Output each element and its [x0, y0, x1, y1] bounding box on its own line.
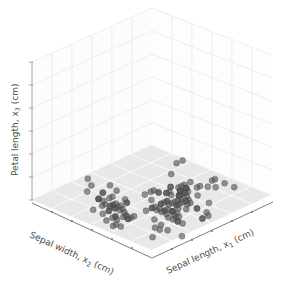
scatter-point: [180, 157, 186, 163]
scatter-point: [148, 197, 154, 203]
scatter-point: [187, 179, 193, 185]
scatter-point: [100, 190, 106, 196]
x-axis-label-prefix: Sepal length, x: [165, 238, 231, 275]
scatter-point: [183, 206, 189, 212]
scatter-point: [158, 222, 164, 228]
scatter-point: [169, 208, 175, 214]
scatter-point: [113, 222, 119, 228]
scatter-point: [197, 183, 203, 189]
scatter-point: [176, 214, 182, 220]
figure-canvas: Petal length, x3 (cm) Sepal width, x2 (c…: [0, 0, 281, 294]
scatter-point: [231, 184, 237, 190]
scatter-point: [212, 176, 218, 182]
x-axis-label-suffix: (cm): [230, 227, 256, 246]
z-axis-label-prefix: Petal length, x: [10, 111, 20, 176]
scatter-point: [152, 225, 158, 231]
scatter-point: [100, 211, 106, 217]
scatter-point: [151, 217, 157, 223]
scatter-point: [88, 182, 94, 188]
scatter-point: [158, 201, 164, 207]
scatter-point: [103, 218, 109, 224]
scatter-point: [195, 193, 201, 199]
scatter-point: [99, 203, 105, 209]
scatter-point: [106, 195, 112, 201]
scatter-point: [213, 184, 219, 190]
scatter-point: [159, 209, 165, 215]
scatter-point: [143, 208, 149, 214]
scatter-point: [117, 207, 123, 213]
z-axis-label: Petal length, x3 (cm): [10, 83, 22, 176]
scatter-point: [168, 192, 174, 198]
scatter-point: [205, 184, 211, 190]
scatter-point: [142, 192, 148, 198]
scatter-point: [175, 185, 181, 191]
scatter-point: [107, 203, 113, 209]
scatter-point: [125, 216, 131, 222]
scatter-point: [150, 234, 156, 240]
scatter3d-plot: Petal length, x3 (cm) Sepal width, x2 (c…: [0, 0, 281, 294]
scatter-point: [109, 215, 115, 221]
scatter-point: [85, 176, 91, 182]
scatter-point: [179, 233, 185, 239]
y-axis-label-suffix: (cm): [90, 258, 116, 277]
scatter-point: [148, 189, 154, 195]
scatter-point: [199, 216, 205, 222]
scatter-point: [114, 188, 120, 194]
scatter-point: [107, 182, 113, 188]
scatter-point: [96, 196, 102, 202]
scatter-point: [222, 180, 228, 186]
scatter-point: [182, 190, 188, 196]
y-axis-label-prefix: Sepal width, x: [28, 230, 91, 266]
y-axis-label: Sepal width, x2 (cm): [27, 230, 115, 279]
scatter-point: [168, 171, 174, 177]
scatter-point: [168, 184, 174, 190]
scatter-point: [165, 227, 171, 233]
z-axis-label-suffix: (cm): [10, 83, 20, 107]
scatter-point: [90, 207, 96, 213]
scatter-point: [174, 160, 180, 166]
scatter-point: [176, 193, 182, 199]
scatter-point: [122, 196, 128, 202]
scatter-point: [204, 209, 210, 215]
scatter-point: [180, 199, 186, 205]
scatter-point: [131, 213, 137, 219]
scatter-point: [84, 189, 90, 195]
scatter-point: [194, 205, 200, 211]
scatter-point: [206, 200, 212, 206]
